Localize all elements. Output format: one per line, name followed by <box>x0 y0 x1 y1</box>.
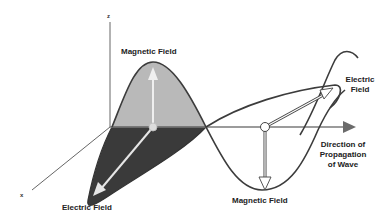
direction-of-propagation-label: Direction of Propagation of Wave <box>313 140 373 170</box>
propagation-arrowhead-icon <box>343 121 356 133</box>
origin-dot-left <box>149 123 157 131</box>
diagram-canvas <box>0 0 390 223</box>
z-axis-label: z <box>107 13 110 19</box>
magnetic-arrow-down-icon <box>259 177 271 190</box>
x-axis-label: x <box>20 192 23 198</box>
magnetic-field-lobe-upper <box>112 62 206 127</box>
electric-field-label-right: Electric Field <box>340 75 380 95</box>
electric-field-lobe-lower <box>88 127 206 205</box>
magnetic-field-label-top: Magnetic Field <box>121 47 177 57</box>
magnetic-field-label-bottom: Magnetic Field <box>232 196 288 206</box>
origin-dot-right <box>261 123 270 132</box>
electric-field-label-bottom: Electric Field <box>62 203 112 213</box>
em-wave-diagram: z x Magnetic Field Electric Field Electr… <box>0 0 390 223</box>
